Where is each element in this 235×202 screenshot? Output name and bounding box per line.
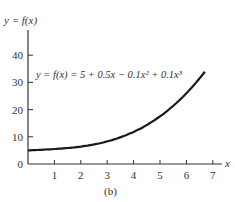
x-tick-label: 3 — [104, 169, 110, 181]
x-tick-label: 6 — [184, 169, 190, 181]
y-axis-label: y = f(x) — [3, 14, 37, 27]
x-tick-label: 7 — [210, 169, 216, 181]
y-ticks: 010203040 — [12, 49, 33, 170]
y-tick-label: 40 — [12, 49, 24, 61]
y-tick-label: 30 — [12, 76, 24, 88]
chart: 010203040 1234567 y = f(x) x y = f(x) = … — [0, 0, 235, 202]
x-tick-label: 5 — [157, 169, 163, 181]
x-tick-label: 1 — [52, 169, 58, 181]
x-axis-label: x — [224, 157, 230, 169]
y-tick-label: 10 — [12, 131, 24, 143]
x-ticks: 1234567 — [52, 160, 216, 181]
x-tick-label: 2 — [78, 169, 84, 181]
function-curve — [28, 72, 205, 151]
equation-annotation: y = f(x) = 5 + 0.5x − 0.1x² + 0.1x³ — [35, 69, 183, 81]
x-tick-label: 4 — [131, 169, 137, 181]
axes — [28, 30, 222, 164]
y-tick-label: 0 — [18, 158, 24, 170]
figure-caption: (b) — [104, 185, 117, 198]
y-tick-label: 20 — [12, 104, 24, 116]
